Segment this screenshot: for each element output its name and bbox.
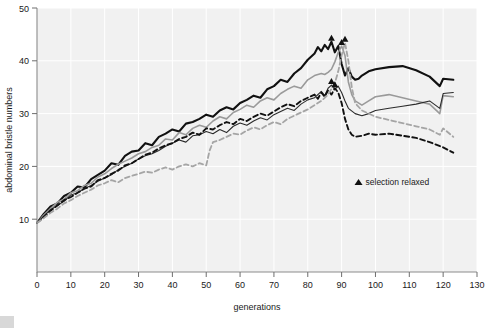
x-tick-label: 130 (469, 280, 484, 290)
y-tick-label: 10 (19, 215, 29, 225)
x-tick-label: 30 (134, 280, 144, 290)
y-tick-label: 30 (19, 109, 29, 119)
x-tick-label: 100 (368, 280, 383, 290)
y-tick-label: 20 (19, 162, 29, 172)
x-tick-label: 80 (303, 280, 313, 290)
corner-artifact (0, 316, 14, 328)
x-tick-label: 70 (269, 280, 279, 290)
y-axis-title: abdominal bristle numbers (4, 87, 14, 193)
y-tick-label: 40 (19, 56, 29, 66)
x-tick-label: 40 (167, 280, 177, 290)
y-tick-label: 50 (19, 4, 29, 14)
x-tick-label: 0 (34, 280, 39, 290)
legend: selection relaxed (355, 177, 430, 187)
x-tick-label: 10 (66, 280, 76, 290)
legend-label-selection-relaxed: selection relaxed (366, 177, 430, 187)
plot-area-background (37, 8, 477, 272)
x-tick-label: 60 (235, 280, 245, 290)
chart-figure: 0102030405060708090100110120130102030405… (0, 0, 486, 328)
x-tick-label: 110 (402, 280, 416, 290)
x-tick-label: 120 (436, 280, 451, 290)
x-tick-label: 90 (337, 280, 347, 290)
x-tick-label: 50 (201, 280, 211, 290)
x-tick-label: 20 (100, 280, 110, 290)
x-axis-title: generations (233, 302, 281, 312)
